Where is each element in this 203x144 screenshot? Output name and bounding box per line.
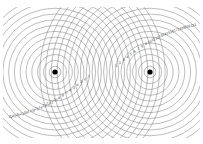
source-left — [52, 69, 57, 74]
interference-canvas: 12345678910111213141516171819202122 1234… — [0, 0, 203, 144]
source-right — [147, 69, 152, 74]
wave-interference-figure: 12345678910111213141516171819202122 1234… — [0, 0, 203, 144]
